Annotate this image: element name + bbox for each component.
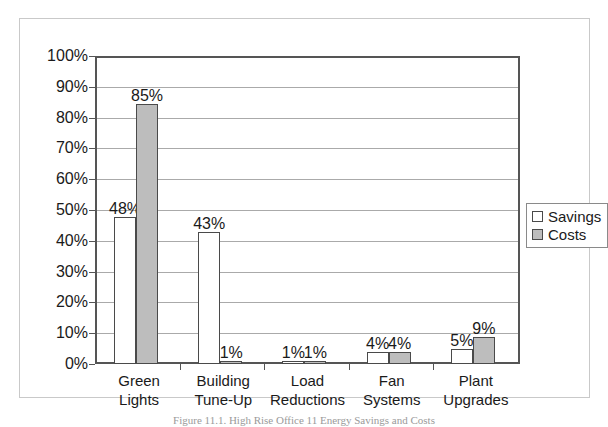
bar-savings-load-reductions[interactable]: 1% (282, 361, 304, 364)
bar-savings-fan-systems[interactable]: 4% (367, 352, 389, 364)
x-axis-tick-mark (264, 364, 265, 370)
y-axis-tick-label: 70% (32, 140, 88, 156)
x-axis-tick-mark (180, 364, 181, 370)
bar-value-label: 1% (282, 344, 305, 362)
y-axis-tick-label: 50% (32, 202, 88, 218)
bar-savings-plant-upgrades[interactable]: 5% (451, 349, 473, 364)
x-axis-label-plant-upgrades: Plant Upgrades (434, 371, 518, 409)
x-axis-label-fan-systems: Fan Systems (350, 371, 434, 409)
bar-savings-building-tune-up[interactable]: 43% (198, 232, 220, 364)
y-axis: 100% 90% 80% 70% 60% 50% 40% 30% 20% 10%… (28, 56, 88, 364)
bar-value-label: 1% (304, 344, 327, 362)
legend-swatch-savings-icon (532, 211, 543, 222)
bar-savings-green-lights[interactable]: 48% (114, 217, 136, 364)
x-axis-label-line: Fan (350, 371, 434, 390)
bar-value-label: 9% (472, 320, 495, 338)
y-axis-tick-label: 90% (32, 79, 88, 95)
bar-group-building-tune-up: 43% 1% (181, 58, 265, 364)
y-axis-tick-mark (89, 364, 95, 365)
bar-costs-load-reductions[interactable]: 1% (304, 361, 326, 364)
x-axis-label-line: Lights (97, 390, 181, 409)
bar-costs-building-tune-up[interactable]: 1% (220, 361, 242, 364)
y-axis-tick-label: 100% (32, 48, 88, 64)
bar-group-plant-upgrades: 5% 9% (434, 58, 518, 364)
figure-caption: Figure 11.1. High Rise Office 11 Energy … (0, 414, 608, 427)
x-axis-label-line: Load (265, 371, 349, 390)
y-axis-tick-label: 20% (32, 294, 88, 310)
bar-group-fan-systems: 4% 4% (350, 58, 434, 364)
bar-value-label: 4% (366, 335, 389, 353)
x-axis-label-load-reductions: Load Reductions (265, 371, 349, 409)
y-axis-tick-label: 30% (32, 264, 88, 280)
y-axis-tick-label: 0% (32, 356, 88, 372)
bar-group-load-reductions: 1% 1% (265, 58, 349, 364)
bars-layer: 48% 85% 43% 1% 1% 1% (97, 58, 518, 364)
bar-costs-plant-upgrades[interactable]: 9% (473, 337, 495, 365)
legend-label-costs: Costs (548, 227, 586, 242)
bar-value-label: 4% (388, 335, 411, 353)
y-axis-tick-label: 80% (32, 110, 88, 126)
bar-costs-green-lights[interactable]: 85% (136, 104, 158, 364)
x-axis-label-line: Building (181, 371, 265, 390)
x-axis-label-line: Plant (434, 371, 518, 390)
bar-value-label: 1% (220, 344, 243, 362)
x-axis-label-line: Green (97, 371, 181, 390)
x-axis-label-building-tune-up: Building Tune-Up (181, 371, 265, 409)
x-axis-label-line: Upgrades (434, 390, 518, 409)
x-axis-category-labels: Green Lights Building Tune-Up Load Reduc… (97, 371, 518, 415)
y-axis-tick-label: 40% (32, 233, 88, 249)
x-axis-tick-mark (349, 364, 350, 370)
chart-frame: 100% 90% 80% 70% 60% 50% 40% 30% 20% 10%… (19, 18, 590, 398)
legend-item-costs[interactable]: Costs (532, 225, 601, 243)
bar-costs-fan-systems[interactable]: 4% (389, 352, 411, 364)
legend-swatch-costs-icon (532, 229, 543, 240)
bar-value-label: 85% (131, 87, 163, 105)
y-axis-tick-label: 10% (32, 325, 88, 341)
x-axis-tick-mark (433, 364, 434, 370)
x-axis-label-line: Tune-Up (181, 390, 265, 409)
bar-group-green-lights: 48% 85% (97, 58, 181, 364)
x-axis-label-green-lights: Green Lights (97, 371, 181, 409)
bar-value-label: 5% (450, 332, 473, 350)
x-axis-label-line: Systems (350, 390, 434, 409)
legend-item-savings[interactable]: Savings (532, 207, 601, 225)
bar-value-label: 43% (193, 215, 225, 233)
y-axis-tick-label: 60% (32, 171, 88, 187)
x-axis-label-line: Reductions (265, 390, 349, 409)
legend-label-savings: Savings (548, 209, 601, 224)
chart-legend[interactable]: Savings Costs (526, 203, 608, 248)
